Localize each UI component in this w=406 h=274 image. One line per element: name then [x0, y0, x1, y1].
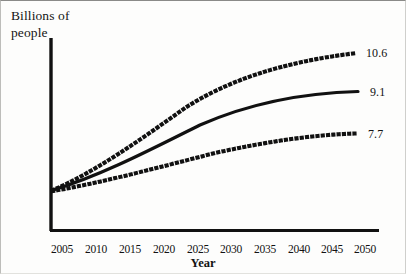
series-low-projection [53, 134, 355, 192]
plot-area [0, 0, 406, 274]
value-label-low: 7.7 [368, 127, 383, 142]
x-axis-title: Year [0, 256, 406, 271]
x-tick-2045: 2045 [315, 243, 349, 256]
value-label-medium: 9.1 [370, 85, 385, 100]
x-tick-2005: 2005 [45, 243, 79, 256]
x-tick-2030: 2030 [214, 243, 248, 256]
x-tick-2020: 2020 [147, 243, 181, 256]
series-medium-projection [53, 92, 358, 191]
x-tick-2010: 2010 [79, 243, 113, 256]
x-tick-2040: 2040 [282, 243, 316, 256]
x-tick-2050: 2050 [348, 243, 382, 256]
chart-figure: Billions of people 10.6 9.1 7.7 2005 201… [0, 0, 406, 274]
value-label-high: 10.6 [366, 46, 387, 61]
x-tick-2025: 2025 [181, 243, 215, 256]
x-tick-2015: 2015 [113, 243, 147, 256]
x-tick-2035: 2035 [248, 243, 282, 256]
